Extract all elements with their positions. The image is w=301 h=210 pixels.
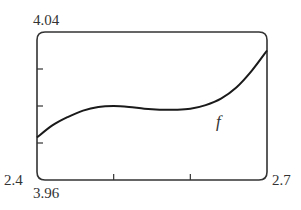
plot-frame [37,32,267,180]
y-min-label: 3.96 [33,186,59,201]
chart-plot [0,0,301,210]
x-min-label: 2.4 [4,173,23,188]
function-curve-f [37,51,267,138]
x-max-label: 2.7 [272,173,291,188]
x-axis-ticks [114,174,191,180]
y-axis-ticks [37,69,43,143]
curve-label-f: f [216,113,221,130]
y-max-label: 4.04 [33,13,59,28]
